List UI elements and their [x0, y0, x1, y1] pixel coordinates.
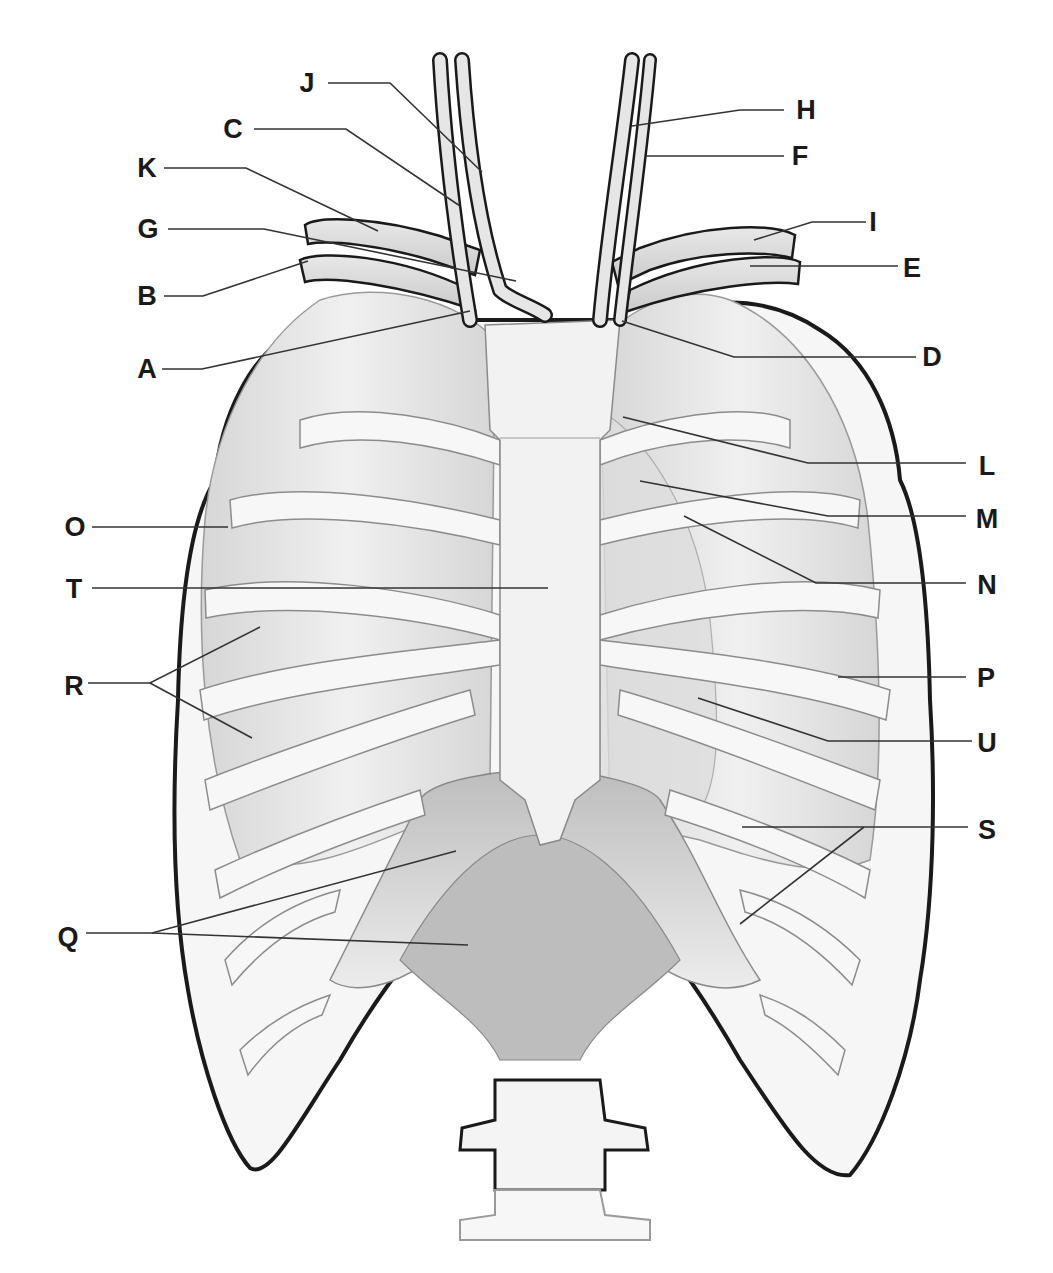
leader-line-H	[632, 110, 784, 126]
neck-vessels	[440, 60, 650, 320]
label-H: H	[796, 97, 816, 124]
label-Q: Q	[57, 924, 78, 951]
label-I: I	[869, 209, 877, 236]
label-B: B	[137, 283, 157, 310]
leader-line-B	[164, 261, 308, 296]
label-M: M	[976, 506, 999, 533]
label-T: T	[66, 576, 83, 603]
label-L: L	[979, 453, 996, 480]
sternum	[485, 320, 620, 845]
thorax-illustration	[0, 0, 1053, 1273]
thoracic-cage-diagram: J C K G B A H F I E D L M N O T R P U S …	[0, 0, 1053, 1273]
label-K: K	[137, 155, 157, 182]
label-G: G	[137, 216, 158, 243]
label-C: C	[223, 116, 243, 143]
label-D: D	[922, 344, 942, 371]
label-N: N	[977, 572, 997, 599]
label-S: S	[978, 817, 996, 844]
label-J: J	[299, 70, 314, 97]
lumbar-vertebra	[460, 1080, 650, 1240]
label-O: O	[64, 514, 85, 541]
label-A: A	[137, 356, 157, 383]
label-E: E	[903, 255, 921, 282]
label-U: U	[977, 730, 997, 757]
label-F: F	[792, 143, 809, 170]
label-P: P	[977, 665, 995, 692]
label-R: R	[64, 673, 84, 700]
leader-line-C	[254, 129, 460, 206]
